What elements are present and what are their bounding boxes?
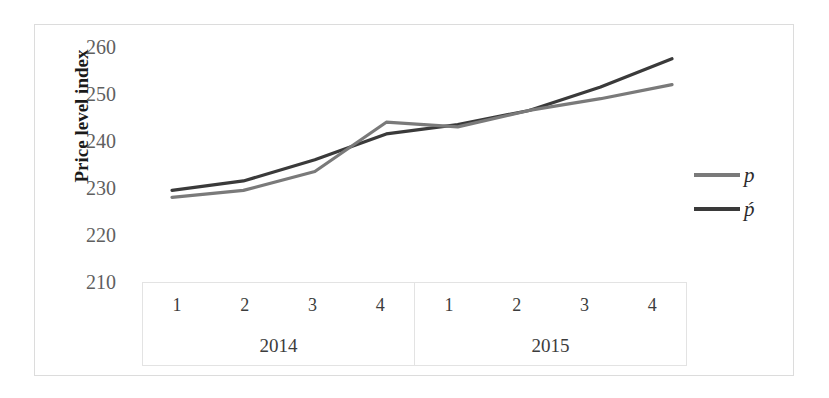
y-tick-label-210: 210	[62, 272, 116, 292]
legend-label-p: p	[744, 165, 755, 186]
x-tick-2014-q3: 3	[279, 295, 347, 316]
chart-container: Price level index 260 250 240 230 220 21…	[0, 0, 829, 398]
y-tick-label-230: 230	[62, 178, 116, 198]
x-tick-2015-q3: 3	[551, 295, 619, 316]
quarter-row-2014: 1 2 3 4	[143, 283, 414, 327]
x-tick-2015-q4: 4	[618, 295, 686, 316]
y-tick-label-220: 220	[62, 225, 116, 245]
legend-item-p-prime: ṕ	[694, 198, 755, 220]
y-tick-label-240: 240	[62, 131, 116, 151]
x-axis-year-2015: 2015	[415, 327, 686, 365]
x-tick-2015-q2: 2	[483, 295, 551, 316]
legend-item-p: p	[694, 164, 755, 186]
y-tick-label-250: 250	[62, 84, 116, 104]
x-tick-2014-q2: 2	[211, 295, 279, 316]
legend: p ṕ	[694, 160, 794, 230]
quarter-row-2015: 1 2 3 4	[415, 283, 686, 327]
legend-swatch-p	[694, 173, 740, 177]
x-axis-group-2015: 1 2 3 4 2015	[415, 283, 686, 365]
x-axis-group-2014: 1 2 3 4 2014	[143, 283, 415, 365]
x-tick-2014-q1: 1	[143, 295, 211, 316]
y-tick-label-260: 260	[62, 37, 116, 57]
legend-swatch-p-prime	[694, 207, 740, 211]
x-tick-2014-q4: 4	[346, 295, 414, 316]
x-tick-2015-q1: 1	[415, 295, 483, 316]
x-axis-label-table: 1 2 3 4 2014 1 2 3 4 2015	[142, 282, 687, 366]
legend-label-p-prime: ṕ	[744, 199, 755, 220]
x-axis-year-2014: 2014	[143, 327, 414, 365]
